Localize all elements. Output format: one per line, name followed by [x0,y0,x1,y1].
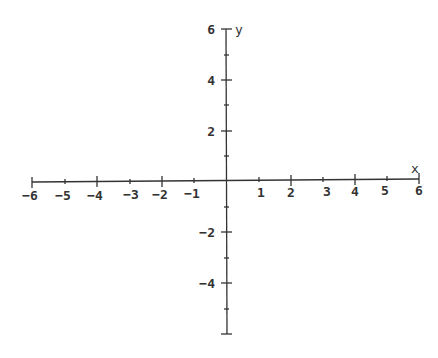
x-tick-label: −3 [123,187,139,202]
y-tick-label: −4 [199,276,215,291]
x-axis [32,173,419,188]
x-tick-label: −4 [87,188,103,203]
x-tick-label: 3 [323,184,331,199]
x-axis-label: x [411,161,419,176]
y-tick-label: 6 [207,22,215,37]
y-tick-label: 4 [207,73,215,88]
x-tick-label: −2 [152,187,168,202]
y-axis-label: y [235,22,243,37]
x-tick-labels: −6 −5 −4 −3 −2 −1 1 2 3 4 5 6 [22,183,423,203]
x-tick-label: 5 [381,183,389,198]
x-tick-label: 6 [415,183,423,198]
x-tick-label: 2 [287,185,295,200]
y-tick-label: −2 [199,225,215,240]
x-tick-label: 1 [257,185,265,200]
x-tick-label: −6 [22,188,38,203]
x-tick-label: −1 [184,186,200,201]
x-tick-label: 4 [351,184,359,199]
y-axis [221,29,232,334]
y-tick-labels: 6 4 2 −2 −4 [199,22,215,291]
y-tick-label: 2 [207,124,215,139]
coordinate-plane: x y −6 −5 −4 −3 −2 −1 1 2 3 4 5 6 6 4 2 … [0,0,438,358]
x-tick-label: −5 [55,188,71,203]
